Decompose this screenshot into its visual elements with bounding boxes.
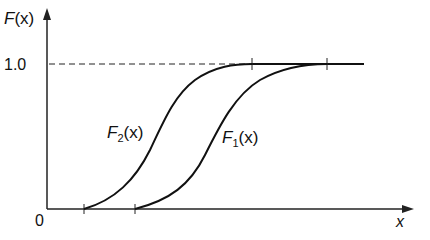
f1-label: F1(x) (222, 128, 258, 149)
y-tick-one: 1.0 (4, 56, 26, 73)
f2-label: F2(x) (107, 123, 143, 144)
x-axis-arrow-icon (402, 205, 414, 213)
y-axis-label: F(x) (4, 9, 34, 28)
origin-label: 0 (35, 212, 44, 229)
y-axis-arrow-icon (43, 8, 51, 20)
x-axis-label: x (395, 213, 405, 230)
cdf-chart: F(x) 1.0 0 x F2(x) F1(x) (0, 0, 430, 240)
